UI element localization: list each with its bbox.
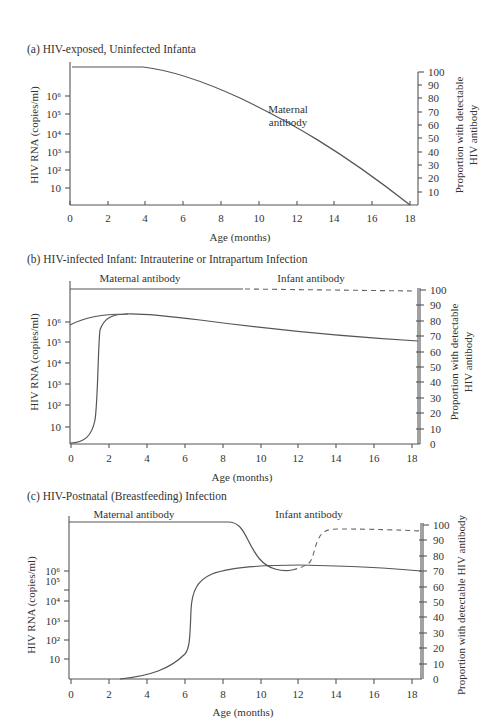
tick-label: 6 bbox=[182, 688, 188, 700]
annotation-infant-antibody: Infant antibody bbox=[277, 272, 345, 284]
tick-label: 10⁶ bbox=[46, 316, 61, 328]
tick-label: 20 bbox=[430, 407, 442, 419]
right-ticks: 100 90 80 70 60 50 40 30 20 10 0 bbox=[416, 284, 447, 450]
x-axis-label: Age (months) bbox=[213, 706, 274, 719]
tick-label: 18 bbox=[407, 688, 419, 700]
tick-label: 10² bbox=[47, 399, 62, 411]
tick-label: 30 bbox=[430, 392, 442, 404]
tick-label: 70 bbox=[428, 106, 440, 118]
annotation-maternal-antibody: Maternal antibody bbox=[100, 272, 181, 284]
tick-label: 40 bbox=[428, 146, 440, 158]
tick-label: 10⁵ bbox=[45, 575, 60, 587]
tick-label: 80 bbox=[428, 92, 440, 104]
tick-label: 100 bbox=[430, 284, 447, 296]
tick-label: 60 bbox=[433, 581, 445, 593]
tick-label: 10 bbox=[50, 421, 62, 433]
tick-label: 0 bbox=[430, 438, 436, 450]
tick-label: 10 bbox=[428, 186, 440, 198]
tick-label: 14 bbox=[329, 212, 341, 224]
y-axis-left-label: HIV RNA (copies/ml) bbox=[25, 556, 38, 654]
tick-label: 50 bbox=[430, 361, 442, 373]
tick-label: 10⁴ bbox=[45, 595, 60, 607]
tick-label: 40 bbox=[430, 376, 442, 388]
hiv-rna-intrapartum-curve bbox=[70, 314, 128, 443]
tick-label: 8 bbox=[218, 212, 224, 224]
tick-label: 40 bbox=[433, 611, 445, 623]
annotation-infant-antibody: Infant antibody bbox=[275, 508, 343, 520]
infant-antibody-curve bbox=[292, 529, 421, 570]
tick-label: 0 bbox=[433, 673, 439, 685]
tick-label: 2 bbox=[105, 212, 111, 224]
tick-label: 8 bbox=[220, 452, 226, 464]
tick-label: 14 bbox=[331, 452, 343, 464]
tick-label: 2 bbox=[106, 688, 112, 700]
tick-label: 12 bbox=[292, 212, 303, 224]
right-ticks: 100 90 80 70 60 50 40 30 20 10 0 bbox=[419, 519, 450, 685]
panel-a: (a) HIV-exposed, Uninfected Infanta 10⁶ … bbox=[27, 43, 479, 244]
annotation-antibody: antibody bbox=[269, 116, 308, 128]
tick-label: 10⁴ bbox=[46, 357, 61, 369]
tick-label: 80 bbox=[433, 550, 445, 562]
panel-b: (b) HIV-infected Infant: Intrauterine or… bbox=[27, 253, 474, 484]
left-ticks: 10⁶ 10⁵ 10⁴ 10³ 10² 10 bbox=[45, 565, 69, 665]
tick-label: 18 bbox=[405, 212, 417, 224]
tick-label: 6 bbox=[180, 212, 186, 224]
tick-label: 4 bbox=[142, 212, 148, 224]
tick-label: 50 bbox=[433, 596, 445, 608]
tick-label: 8 bbox=[220, 688, 226, 700]
y-axis-right-label-line2: HIV antibody bbox=[462, 331, 474, 392]
tick-label: 0 bbox=[67, 212, 73, 224]
left-ticks: 10⁶ 10⁵ 10⁴ 10³ 10² 10 bbox=[46, 316, 70, 433]
tick-label: 10² bbox=[47, 164, 62, 176]
tick-label: 10⁶ bbox=[46, 90, 61, 102]
maternal-antibody-curve bbox=[72, 67, 410, 205]
tick-label: 90 bbox=[428, 79, 440, 91]
tick-label: 18 bbox=[407, 452, 419, 464]
hiv-rna-curve bbox=[120, 565, 421, 679]
y-axis-right-label-line1: Proportion with detectable bbox=[453, 77, 465, 194]
tick-label: 4 bbox=[144, 452, 150, 464]
tick-label: 2 bbox=[106, 452, 112, 464]
x-axis-label: Age (months) bbox=[210, 231, 271, 244]
tick-label: 60 bbox=[428, 119, 440, 131]
tick-label: 16 bbox=[369, 688, 381, 700]
tick-label: 10 bbox=[256, 688, 268, 700]
tick-label: 80 bbox=[430, 315, 442, 327]
annotation-maternal: Maternal bbox=[268, 103, 308, 115]
maternal-antibody-curve bbox=[69, 522, 292, 571]
tick-label: 10 bbox=[50, 182, 62, 194]
tick-label: 0 bbox=[68, 688, 74, 700]
y-axis-left-label: HIV RNA (copies/ml) bbox=[28, 313, 41, 411]
tick-label: 10⁵ bbox=[46, 108, 61, 120]
right-ticks: 100 90 80 70 60 50 40 30 20 10 bbox=[418, 66, 445, 198]
tick-label: 0 bbox=[68, 452, 74, 464]
figure: (a) HIV-exposed, Uninfected Infanta 10⁶ … bbox=[0, 0, 495, 722]
tick-label: 10⁴ bbox=[46, 128, 61, 140]
tick-label: 10² bbox=[46, 634, 61, 646]
tick-label: 10³ bbox=[47, 378, 62, 390]
panel-c: (c) HIV-Postnatal (Breastfeeding) Infect… bbox=[25, 490, 467, 719]
tick-label: 16 bbox=[367, 212, 379, 224]
left-ticks: 10⁶ 10⁵ 10⁴ 10³ 10² 10 bbox=[46, 90, 70, 194]
tick-label: 10 bbox=[49, 653, 61, 665]
panel-b-title: (b) HIV-infected Infant: Intrauterine or… bbox=[27, 253, 308, 266]
tick-label: 100 bbox=[428, 66, 445, 78]
y-axis-right-label: Proportion with detectable HIV antibody bbox=[455, 514, 467, 695]
tick-label: 14 bbox=[331, 688, 343, 700]
tick-label: 70 bbox=[430, 330, 442, 342]
tick-label: 90 bbox=[430, 299, 442, 311]
x-ticks: 0 2 4 6 8 10 12 14 16 18 bbox=[68, 444, 418, 464]
panel-a-title: (a) HIV-exposed, Uninfected Infanta bbox=[27, 43, 196, 56]
y-axis-left-label: HIV RNA (copies/ml) bbox=[28, 86, 41, 184]
tick-label: 90 bbox=[433, 534, 445, 546]
tick-label: 10⁵ bbox=[46, 336, 61, 348]
tick-label: 30 bbox=[433, 627, 445, 639]
tick-label: 20 bbox=[428, 172, 440, 184]
tick-label: 100 bbox=[433, 519, 450, 531]
y-axis-right-label-line2: HIV antibody bbox=[467, 104, 479, 165]
tick-label: 20 bbox=[433, 642, 445, 654]
tick-label: 6 bbox=[182, 452, 188, 464]
tick-label: 10 bbox=[256, 452, 268, 464]
tick-label: 10³ bbox=[47, 146, 62, 158]
tick-label: 12 bbox=[293, 688, 304, 700]
